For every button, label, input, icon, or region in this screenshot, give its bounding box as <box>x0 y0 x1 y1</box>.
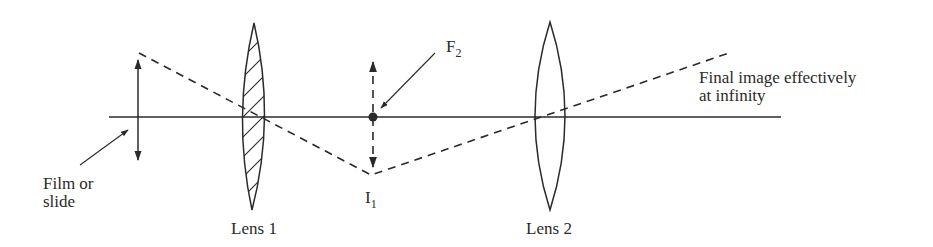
intermediate-image-label: I1 <box>365 188 377 211</box>
f2-pointer-arrow-icon <box>381 53 435 108</box>
lens-1-label: Lens 1 <box>231 219 277 238</box>
final-image-label-line1: Final image effectively <box>699 68 857 87</box>
focal-point-label: F2 <box>446 37 461 60</box>
film-pointer-arrow-icon <box>80 130 128 165</box>
film-label-line2: slide <box>43 192 75 211</box>
lens-2-label: Lens 2 <box>526 219 572 238</box>
focal-point-dot-icon <box>369 113 378 122</box>
principal-ray <box>139 52 732 175</box>
final-image-label-line2: at infinity <box>699 86 766 105</box>
two-lens-ray-diagram: F2 I1 Film or slide Lens 1 Lens 2 Final … <box>0 0 933 247</box>
film-label-line1: Film or <box>43 174 94 193</box>
lens-2 <box>535 22 565 210</box>
lens-1 <box>230 20 280 230</box>
